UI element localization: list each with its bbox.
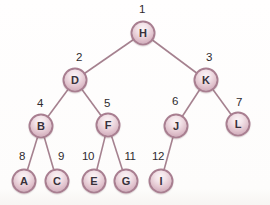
tree-node-j: J — [164, 114, 189, 139]
order-label-7: 7 — [236, 97, 242, 109]
tree-node-g: G — [114, 169, 139, 194]
order-label-8: 8 — [19, 151, 25, 163]
order-label-5: 5 — [104, 98, 110, 110]
tree-node-a: A — [12, 169, 37, 194]
tree-node-k: K — [194, 68, 219, 93]
tree-node-c: C — [45, 169, 70, 194]
order-label-9: 9 — [58, 151, 64, 163]
order-label-10: 10 — [82, 151, 94, 163]
tree-node-d: D — [63, 68, 88, 93]
tree-node-b: B — [29, 114, 54, 139]
tree-node-h: H — [131, 21, 156, 46]
order-label-4: 4 — [37, 98, 43, 110]
order-label-3: 3 — [206, 52, 212, 64]
tree-node-f: F — [96, 113, 121, 138]
order-label-11: 11 — [125, 151, 136, 163]
order-label-12: 12 — [152, 151, 164, 163]
tree-node-e: E — [82, 169, 107, 194]
order-label-2: 2 — [76, 52, 82, 64]
binary-tree-diagram: 1 2 3 4 5 6 7 8 9 10 11 12 H D K B F J L… — [0, 0, 270, 205]
tree-node-l: L — [226, 112, 251, 137]
tree-node-i: I — [149, 169, 174, 194]
order-label-6: 6 — [172, 96, 178, 108]
order-label-1: 1 — [139, 4, 145, 16]
